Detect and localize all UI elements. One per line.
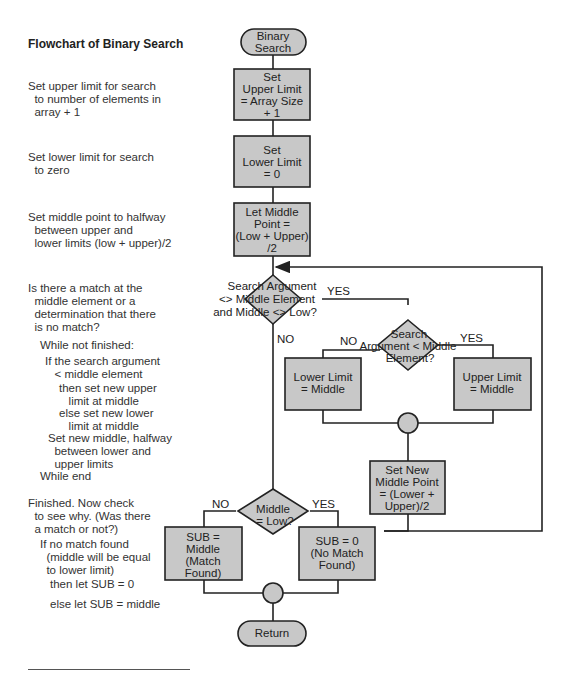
svg-text:Set: Set	[263, 71, 281, 83]
svg-text:Middle: Middle	[186, 543, 220, 555]
svg-text:Point =: Point =	[254, 218, 290, 230]
svg-text:Search: Search	[391, 328, 427, 340]
svg-text:+ 1: + 1	[264, 107, 280, 119]
svg-text:= 0: = 0	[264, 168, 280, 180]
svg-text:Search: Search	[255, 42, 291, 54]
svg-text:Middle: Middle	[256, 503, 290, 515]
svg-text:Upper)/2: Upper)/2	[385, 500, 430, 512]
svg-text:= Low?: = Low?	[256, 515, 293, 527]
set-upper-limit-process: Set Upper Limit = Array Size + 1	[234, 69, 310, 120]
svg-text:Found): Found)	[319, 559, 356, 571]
svg-text:<> Middle Element: <> Middle Element	[219, 293, 316, 305]
start-terminator: Binary Search	[241, 29, 306, 55]
no-label: NO	[212, 498, 229, 510]
svg-text:Let Middle: Let Middle	[245, 206, 298, 218]
merge-connector	[263, 583, 283, 603]
svg-text:= Middle: = Middle	[470, 383, 514, 395]
lower-limit-middle-process: Lower Limit = Middle	[285, 358, 361, 410]
set-new-middle-process: Set New Middle Point = (Lower + Upper)/2	[370, 461, 445, 514]
svg-text:Lower Limit: Lower Limit	[243, 156, 303, 168]
svg-text:Set New: Set New	[385, 464, 429, 476]
no-label: NO	[277, 333, 294, 345]
merge-connector	[398, 413, 418, 433]
svg-text:= Array Size: = Array Size	[241, 95, 303, 107]
svg-text:Argument < Middle: Argument < Middle	[360, 340, 457, 352]
svg-text:Search Argument: Search Argument	[228, 280, 318, 292]
svg-text:Middle Point: Middle Point	[375, 476, 439, 488]
svg-text:(Match: (Match	[185, 555, 220, 567]
svg-text:Upper Limit: Upper Limit	[463, 371, 523, 383]
svg-text:Return: Return	[255, 627, 290, 639]
yes-label: YES	[327, 285, 350, 297]
svg-text:Set: Set	[263, 144, 281, 156]
sub-zero-process: SUB = 0 (No Match Found)	[299, 527, 375, 580]
upper-limit-middle-process: Upper Limit = Middle	[454, 358, 531, 410]
svg-text:SUB =: SUB =	[186, 531, 220, 543]
svg-text:/2: /2	[267, 242, 277, 254]
svg-text:= Middle: = Middle	[301, 383, 345, 395]
sub-middle-process: SUB = Middle (Match Found)	[165, 527, 242, 580]
svg-text:Upper Limit: Upper Limit	[243, 83, 303, 95]
svg-text:= (Lower +: = (Lower +	[380, 488, 435, 500]
svg-text:(Low + Upper): (Low + Upper)	[235, 230, 308, 242]
let-middle-point-process: Let Middle Point = (Low + Upper) /2	[234, 203, 310, 256]
svg-text:Found): Found)	[185, 567, 222, 579]
svg-text:Lower Limit: Lower Limit	[294, 371, 354, 383]
svg-text:Binary: Binary	[257, 30, 290, 42]
flowchart: Binary Search Set Upper Limit = Array Si…	[0, 0, 568, 680]
no-label: NO	[340, 335, 357, 347]
yes-label: YES	[312, 498, 335, 510]
svg-text:SUB = 0: SUB = 0	[315, 535, 358, 547]
loop-decision-diamond: Search Argument <> Middle Element and Mi…	[213, 275, 350, 345]
svg-text:Element?: Element?	[386, 352, 435, 364]
set-lower-limit-process: Set Lower Limit = 0	[234, 136, 310, 187]
svg-text:and Middle <> Low?: and Middle <> Low?	[213, 306, 317, 318]
yes-label: YES	[460, 332, 483, 344]
svg-text:(No Match: (No Match	[310, 547, 363, 559]
return-terminator: Return	[238, 621, 306, 646]
